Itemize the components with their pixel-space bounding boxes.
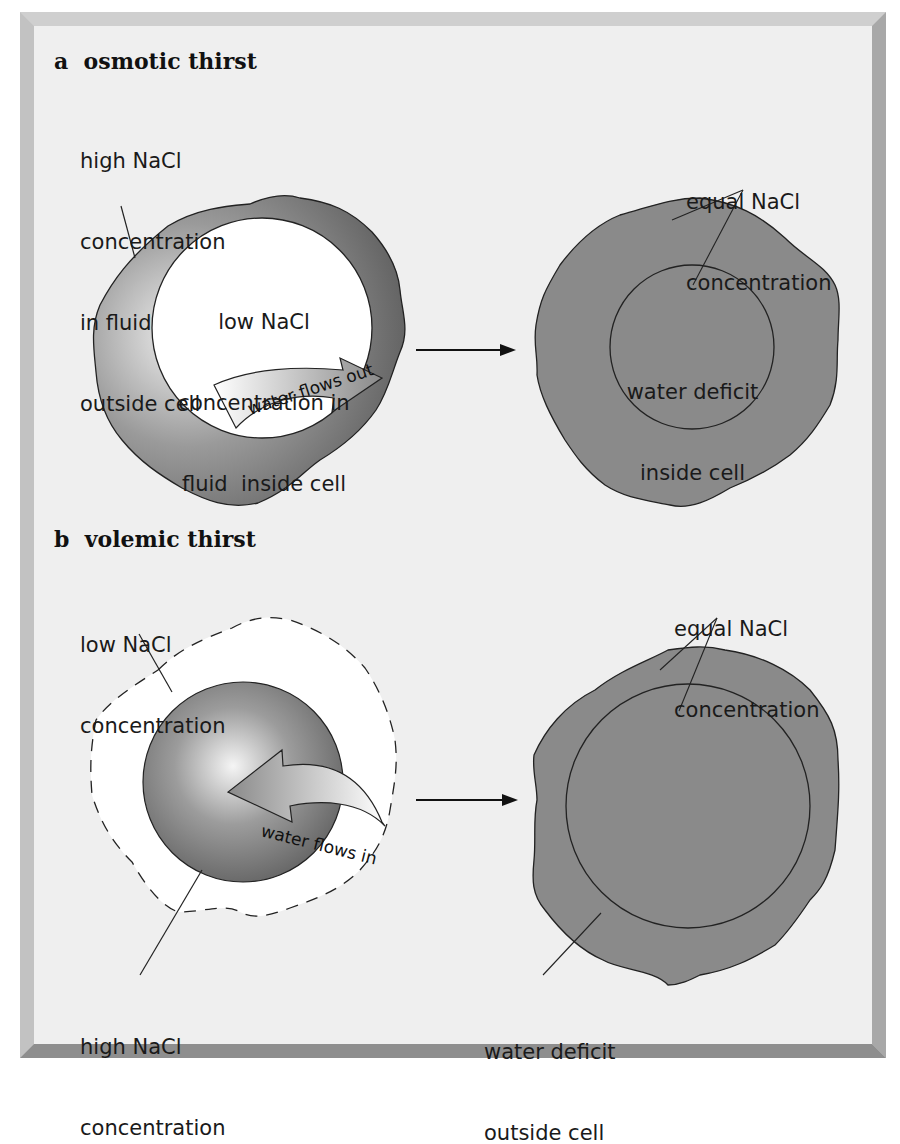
panel-a-equal-label: equal NaCl concentration <box>686 135 831 351</box>
label-line: inside cell <box>610 460 775 487</box>
label-line: concentration in <box>160 390 368 417</box>
label-line: concentration <box>674 697 819 724</box>
panel-b-outside-label: low NaCl concentration <box>80 578 225 794</box>
label-line: low NaCl <box>80 632 225 659</box>
panel-b-deficit-label: water deficit outside cell <box>484 985 616 1144</box>
label-line: equal NaCl <box>686 189 831 216</box>
panel-b-title: b volemic thirst <box>54 526 256 552</box>
panel-a-heading: osmotic thirst <box>84 48 257 74</box>
label-line: water deficit <box>484 1039 616 1066</box>
panel-b-letter: b <box>54 526 69 552</box>
label-line: concentration <box>80 713 225 740</box>
panel-b-heading: volemic thirst <box>85 526 256 552</box>
label-line: concentration <box>80 229 225 256</box>
label-line: low NaCl <box>160 309 368 336</box>
label-line: high NaCl <box>80 1034 225 1061</box>
panel-a-title: a osmotic thirst <box>54 48 257 74</box>
label-line: concentration <box>686 270 831 297</box>
label-line: equal NaCl <box>674 616 819 643</box>
panel-b-equal-label: equal NaCl concentration <box>674 562 819 778</box>
label-line: fluid inside cell <box>160 471 368 498</box>
panel-b-inside-label: high NaCl concentration <box>80 980 225 1144</box>
label-line: concentration <box>80 1115 225 1142</box>
panel-a-deficit-label: water deficit inside cell <box>610 325 775 541</box>
label-line: water deficit <box>610 379 775 406</box>
label-line: outside cell <box>484 1120 616 1144</box>
label-line: high NaCl <box>80 148 225 175</box>
panel-a-letter: a <box>54 48 68 74</box>
panel-a-inside-label: low NaCl concentration in fluid inside c… <box>160 255 368 552</box>
